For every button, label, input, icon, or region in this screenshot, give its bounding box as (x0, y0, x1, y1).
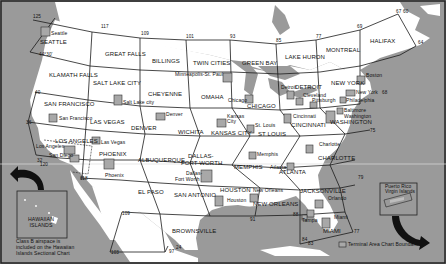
terminal-label-pittsburgh: Pittsburgh (312, 97, 336, 103)
coord-label: 118 (80, 176, 88, 181)
terminal-label-denver: Denver (166, 111, 183, 117)
terminal-label-new-orleans: New Orleans (253, 187, 283, 193)
sectional-label-detroit: DETROIT (295, 84, 322, 90)
sectional-label-miami: MIAMI (323, 228, 341, 234)
sectional-label-st-louis: ST LOUIS (258, 131, 286, 137)
sectional-label-twin-cities: TWIN CITIES (193, 60, 230, 66)
sectional-label-jacksonville: JACKSONVILLE (300, 188, 346, 194)
coord-label: 77 (354, 229, 359, 234)
sectional-label-houston: HOUSTON (220, 187, 251, 193)
coord-label: 77 (316, 34, 321, 39)
terminal-label-charlotte: Charlotte (319, 141, 340, 147)
sectional-label-kansas-city: KANSAS CITY (211, 130, 252, 136)
terminal-label-chicago: Chicago (228, 97, 247, 103)
coord-label: 88 (293, 212, 298, 217)
coord-label: 109 (141, 31, 149, 36)
terminal-label-atlanta: Atlanta (270, 164, 286, 170)
coord-label: 125 (33, 14, 41, 19)
sectional-label-el-paso: EL PASO (138, 189, 164, 195)
terminal-label-orlando: Orlando (328, 195, 347, 201)
coord-label: 85 (276, 38, 281, 43)
terminal-label-seattle: Seattle (51, 30, 67, 36)
sectional-label-halifax: HALIFAX (370, 38, 395, 44)
coord-label: 79 (358, 175, 363, 180)
coord-label: 84 (302, 237, 307, 242)
terminal-label-philadelphia: Philadelphia (346, 97, 374, 103)
sectional-label-san-antonio: SAN ANTONIO (174, 192, 216, 198)
terminal-label-san-francisco: San Francisco (59, 115, 92, 121)
coord-label: 36 (26, 120, 31, 125)
terminal-label-miami: Miami (334, 214, 348, 220)
coord-label: 91 (250, 217, 255, 222)
coord-label: 44°30' (39, 52, 53, 57)
sectional-label-seattle: SEATTLE (40, 39, 67, 45)
terminal-label-phoenix: Phoenix (105, 172, 124, 178)
hawaii-title-line2: ISLANDS (21, 222, 61, 228)
sectional-label-salt-lake-city: SALT LAKE CITY (93, 80, 141, 86)
sectional-label-phoenix: PHOENIX (99, 151, 127, 157)
terminal-label-san-diego: San Diego (49, 152, 73, 158)
sectional-label-klamath-falls: KLAMATH FALLS (49, 72, 98, 78)
sectional-label-las-vegas: LAS VEGAS (90, 119, 125, 125)
coord-label: 69 (357, 24, 362, 29)
puerto-rico-title: Puerto Rico Virgin Islands (385, 184, 415, 194)
terminal-label-houston: Houston (227, 197, 246, 203)
terminal-label-memphis: Memphis (257, 151, 278, 157)
coord-label: 101 (186, 34, 194, 39)
terminal-label-cincinnati: Cincinnati (293, 113, 316, 119)
coord-label: 24 (176, 245, 181, 250)
coord-label: 32 (37, 158, 42, 163)
terminal-label-salt-lake-city: Salt Lake city (123, 99, 154, 105)
coord-label: 75 (370, 128, 375, 133)
sectional-label-lake-huron: LAKE HURON (285, 54, 325, 60)
coord-label: 40 (35, 90, 40, 95)
sectional-label-memphis: MEMPHIS (234, 164, 263, 170)
hawaii-note-line3: Islands Sectional Chart (16, 250, 74, 256)
terminal-label-detroit: Detroit (281, 84, 296, 90)
coord-label: 97 (169, 249, 174, 254)
coord-label: 109 (122, 211, 130, 216)
sectional-label-montreal: MONTREAL (326, 47, 360, 53)
terminal-label-minneapolis: Minneapolis-St. Paul (175, 71, 223, 77)
terminal-label-washington: Washington (344, 113, 371, 119)
sectional-label-fort-worth: FORT WORTH (181, 160, 222, 166)
sectional-label-green-bay: GREEN BAY (242, 60, 277, 66)
coord-label: 117 (101, 24, 109, 29)
terminal-label-boston: Boston (366, 72, 382, 78)
coord-label: 67 (396, 9, 401, 14)
coord-label: 64 (418, 40, 423, 45)
coord-label: 60 (403, 9, 408, 14)
sectional-label-omaha: OMAHA (201, 94, 224, 100)
sectional-label-dallas: DALLAS- (188, 153, 214, 159)
coord-label: 93 (230, 34, 235, 39)
terminal-label-fort-worth: Fort Worth (175, 176, 200, 182)
terminal-label-new-york: New York (356, 89, 378, 95)
sectional-label-new-orleans: NEW ORLEANS (253, 201, 298, 207)
terminal-label-st-louis: St. Louis (255, 122, 275, 128)
legend-swatch (339, 242, 346, 247)
sectional-label-san-francisco: SAN FRANCISCO (44, 101, 95, 107)
sectional-label-wichita: WICHITA (178, 129, 204, 135)
coord-label: 68 (382, 90, 387, 95)
sectional-label-chicago: CHICAGO (247, 103, 276, 109)
sectional-label-charlotte: CHARLOTTE (318, 155, 355, 161)
sectional-label-cincinnati: CINCINNATI (291, 122, 326, 128)
sectional-label-cheyenne: CHEYENNE (148, 91, 182, 97)
sectional-label-billings: BILLINGS (152, 58, 180, 64)
terminal-label-las-vegas: Las Vegas (101, 139, 125, 145)
sectional-label-new-york: NEW YORK (331, 80, 364, 86)
coord-label: 83 (308, 241, 313, 246)
terminal-label-kansas-city: Kansas City (227, 114, 243, 124)
sectional-label-brownsville: BROWNSVILLE (172, 228, 216, 234)
terminal-label-los-angeles: Los Angeles (36, 143, 64, 149)
hawaii-note: Class B airspace is included on the Hawa… (16, 238, 74, 256)
hawaii-inset-box (17, 191, 67, 238)
sectional-label-washington: WASHINGTON (330, 119, 372, 125)
sectional-label-great-falls: GREAT FALLS (105, 51, 146, 57)
sectional-chart-index-map: SEATTLE GREAT FALLS BILLINGS TWIN CITIES… (0, 0, 446, 264)
terminal-label-tampa: Tampa (302, 217, 318, 223)
sectional-label-albuquerque: ALBUQUERQUE (138, 157, 185, 163)
sectional-label-denver: DENVER (131, 125, 157, 131)
hawaii-title: HAWAIIAN ISLANDS (21, 216, 61, 228)
legend-label: Terminal Area Chart Boundaries (348, 241, 422, 247)
